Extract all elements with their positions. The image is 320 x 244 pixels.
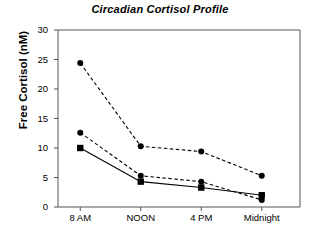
series-line-series-3 (80, 148, 262, 195)
series-line-series-2 (80, 133, 262, 200)
data-point-circle (77, 130, 83, 136)
data-point-circle (77, 60, 83, 66)
data-point-circle (259, 173, 265, 179)
plot-frame (58, 30, 300, 207)
series-line-series-1 (80, 63, 262, 176)
data-point-circle (198, 149, 204, 155)
data-point-square (198, 184, 204, 190)
data-point-circle (138, 143, 144, 149)
data-point-square (259, 192, 265, 198)
plot-area (0, 0, 320, 244)
data-point-square (77, 145, 83, 151)
data-point-circle (198, 179, 204, 185)
data-point-circle (138, 173, 144, 179)
chart-figure: Circadian Cortisol Profile Free Cortisol… (0, 0, 320, 244)
data-point-square (138, 178, 144, 184)
